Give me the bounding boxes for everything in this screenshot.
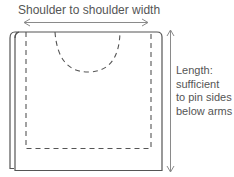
fabric-outline <box>10 32 162 171</box>
length-label-line-2: sufficient <box>176 78 232 92</box>
length-label-line-4: below arms <box>176 105 232 119</box>
length-label-line-1: Length: <box>176 64 232 78</box>
length-label-line-3: to pin sides <box>176 91 232 105</box>
width-arrow <box>24 19 148 26</box>
neckline-dashed <box>55 32 120 72</box>
seam-line-dashed <box>26 32 151 149</box>
length-label: Length: sufficient to pin sides below ar… <box>176 64 232 118</box>
length-arrow <box>167 30 174 172</box>
